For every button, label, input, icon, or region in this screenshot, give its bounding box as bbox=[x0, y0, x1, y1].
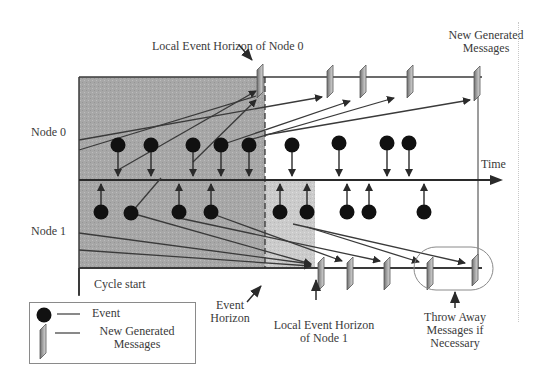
new-generated-line2: Messages bbox=[436, 42, 536, 55]
local-horizon-node1-label: Local Event Horizon of Node 1 bbox=[264, 319, 384, 345]
event-icon bbox=[362, 184, 377, 220]
legend-message-label: New Generated Messages bbox=[92, 325, 182, 351]
legend-message-icon bbox=[40, 324, 46, 359]
throw-away-line3: Necessary bbox=[413, 337, 497, 350]
legend: Event New Generated Messages bbox=[29, 302, 196, 364]
message-icon bbox=[360, 65, 366, 98]
event-icon bbox=[285, 138, 300, 177]
message-icon bbox=[407, 65, 413, 98]
node0-label: Node 0 bbox=[31, 126, 66, 139]
legend-event-label: Event bbox=[92, 307, 120, 320]
legend-event-icon bbox=[37, 308, 52, 323]
event-icon bbox=[402, 136, 417, 177]
event-icon bbox=[124, 206, 139, 221]
message-icon bbox=[318, 257, 324, 291]
message-icon bbox=[327, 65, 333, 98]
local-horizon-node1-line2: of Node 1 bbox=[264, 332, 384, 345]
message-icon bbox=[472, 254, 478, 286]
event-icon bbox=[332, 136, 347, 177]
message-icon bbox=[474, 66, 480, 101]
message-icon bbox=[257, 64, 263, 98]
message-icon bbox=[427, 257, 433, 290]
message-icon bbox=[384, 257, 390, 290]
throw-away-label: Throw Away Messages if Necessary bbox=[413, 311, 497, 350]
time-axis-label: Time bbox=[481, 158, 506, 171]
event-icon bbox=[417, 184, 432, 220]
event-icon bbox=[380, 136, 395, 177]
time-warp-diagram: Local Event Horizon of Node 0 New Genera… bbox=[0, 0, 547, 388]
legend-message-line2: Messages bbox=[92, 338, 182, 351]
node1-label: Node 1 bbox=[31, 225, 66, 238]
event-horizon-label: Event Horizon bbox=[200, 299, 260, 325]
new-generated-messages-label: New Generated Messages bbox=[436, 29, 536, 55]
message-icon bbox=[347, 257, 353, 290]
cycle-start-label: Cycle start bbox=[94, 278, 146, 291]
right-frame-border bbox=[518, 22, 519, 322]
local-horizon-node0-label: Local Event Horizon of Node 0 bbox=[152, 40, 304, 53]
event-icon bbox=[340, 184, 355, 220]
node1-messages bbox=[318, 254, 478, 291]
event-horizon-line2: Horizon bbox=[200, 312, 260, 325]
node0-messages bbox=[257, 64, 480, 101]
